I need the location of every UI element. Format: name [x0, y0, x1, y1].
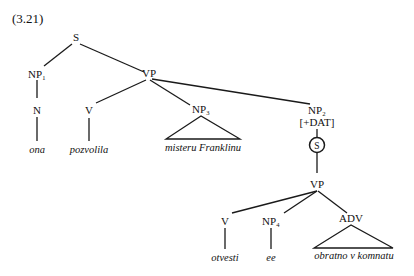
- word-pozvolila: pozvolila: [69, 144, 109, 155]
- node-np2: NP₂: [308, 104, 326, 116]
- adv-triangle: [314, 225, 393, 248]
- edge-s-np1: [44, 44, 72, 66]
- word-otvesti: otvesti: [211, 252, 238, 263]
- word-ee: ee: [266, 252, 276, 263]
- edge-s-vp: [80, 44, 144, 72]
- node-n: N: [33, 104, 41, 116]
- word-obratno-v-komnatu: obratno v komnatu: [314, 250, 393, 261]
- word-ona: ona: [29, 144, 45, 155]
- node-v: V: [85, 104, 93, 116]
- node-v2: V: [221, 215, 229, 227]
- edge-vp-np2: [152, 79, 310, 104]
- np3-triangle: [166, 116, 240, 139]
- word-misteru-franklinu: misteru Franklinu: [165, 142, 241, 153]
- node-adv: ADV: [339, 212, 363, 224]
- node-s: S: [73, 31, 79, 43]
- node-np4: NP₄: [262, 215, 280, 227]
- edge-vp2-np4: [284, 191, 317, 213]
- node-np1: NP₁: [28, 68, 46, 80]
- node-np2-feature: [+DAT]: [300, 116, 335, 128]
- node-s-embedded: S: [314, 141, 319, 151]
- edge-vp2-adv: [318, 191, 347, 213]
- edge-vp-v: [96, 80, 146, 103]
- example-number: (3.21): [12, 11, 43, 26]
- edge-vp2-v: [232, 191, 317, 213]
- node-vp: VP: [142, 67, 156, 79]
- node-vp2: VP: [310, 178, 324, 190]
- node-np3: NP₃: [192, 103, 210, 115]
- syntax-tree-diagram: (3.21) S NP₁ N VP V NP₃ NP₂ [+DAT] S VP …: [0, 0, 414, 276]
